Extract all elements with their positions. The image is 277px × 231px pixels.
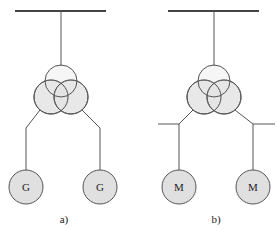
generator-label: G [22, 181, 30, 193]
generator-right: G [83, 170, 117, 204]
generator-left: G [9, 170, 43, 204]
panel-b: M M b) [158, 11, 275, 226]
diagram-canvas: G G a) M M b) [0, 0, 277, 231]
panel-caption: b) [211, 213, 221, 226]
motor-label: M [174, 181, 184, 193]
panel-caption: a) [60, 213, 69, 226]
lead-left [179, 110, 193, 170]
three-winding-transformer [34, 65, 88, 114]
motor-label: M [248, 181, 258, 193]
motor-right: M [236, 170, 270, 204]
panel-a: G G a) [9, 11, 117, 226]
lead-left [26, 110, 40, 170]
lead-right [235, 110, 253, 170]
generator-label: G [96, 181, 104, 193]
motor-left: M [162, 170, 196, 204]
lead-right [82, 110, 100, 170]
three-winding-transformer [187, 65, 241, 114]
